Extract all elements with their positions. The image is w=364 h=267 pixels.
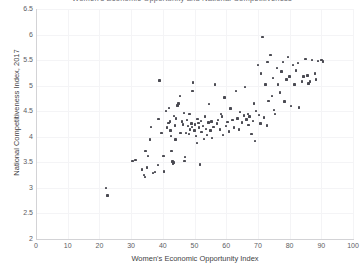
data-point: [238, 128, 240, 130]
data-point: [157, 164, 159, 166]
data-point: [199, 163, 201, 165]
data-point: [146, 166, 148, 168]
data-point: [169, 120, 171, 122]
data-point: [209, 129, 211, 131]
data-point: [188, 113, 190, 115]
x-axis-tick-labels: 0102030405060708090100: [0, 242, 364, 254]
chart-title: Women's Economic Opportunity and Nationa…: [0, 0, 364, 3]
data-point: [170, 150, 172, 152]
data-point: [216, 122, 218, 124]
data-point: [266, 124, 268, 126]
gridline-horizontal: [36, 188, 353, 189]
data-point: [248, 115, 250, 117]
gridline-horizontal: [36, 111, 353, 112]
data-point: [150, 126, 152, 128]
plot-area: [36, 9, 353, 239]
data-point: [202, 125, 204, 127]
data-point: [306, 74, 308, 76]
data-point: [247, 124, 249, 126]
y-axis-title: National Competitiveness Index, 2017: [12, 33, 21, 193]
y-tick-label: 5.5: [23, 56, 33, 64]
data-point: [170, 135, 172, 137]
data-point: [176, 104, 178, 106]
y-tick-label: 6: [29, 31, 33, 39]
data-point: [231, 119, 233, 121]
gridline-vertical: [353, 9, 354, 239]
data-point: [191, 90, 193, 92]
data-point: [217, 119, 219, 121]
data-point: [179, 95, 181, 97]
data-point: [285, 78, 287, 80]
y-tick-label: 5: [29, 82, 33, 90]
data-point: [269, 54, 271, 56]
data-point: [197, 122, 199, 124]
data-point: [253, 102, 255, 104]
data-point: [190, 122, 192, 124]
data-point: [250, 133, 252, 135]
x-tick-label: 0: [24, 242, 48, 250]
data-point: [282, 61, 284, 63]
y-tick-label: 4: [29, 133, 33, 141]
data-point: [157, 118, 159, 120]
data-point: [200, 131, 202, 133]
data-point: [239, 111, 241, 113]
data-point: [208, 103, 210, 105]
data-point: [315, 78, 317, 80]
gridline-horizontal: [36, 35, 353, 36]
data-point: [309, 80, 311, 82]
data-point: [195, 135, 197, 137]
gridline-vertical: [163, 9, 164, 239]
data-point: [223, 96, 225, 98]
data-point: [182, 123, 184, 125]
data-point: [175, 117, 177, 119]
data-point: [183, 112, 185, 114]
x-tick-label: 40: [151, 242, 175, 250]
data-point: [266, 61, 268, 63]
x-axis-line: [36, 239, 354, 240]
data-point: [226, 121, 228, 123]
data-point: [158, 79, 160, 81]
data-point: [162, 155, 164, 157]
data-point: [302, 75, 304, 77]
data-point: [233, 126, 235, 128]
data-point: [193, 129, 195, 131]
data-point: [260, 72, 262, 74]
scatter-chart-figure: Women's Economic Opportunity and Nationa…: [0, 0, 364, 267]
data-point: [149, 138, 151, 140]
data-point: [314, 72, 316, 74]
data-point: [263, 116, 265, 118]
data-point: [293, 83, 295, 85]
data-point: [191, 126, 193, 128]
gridline-vertical: [226, 9, 227, 239]
data-point: [271, 95, 273, 97]
x-tick-label: 70: [246, 242, 270, 250]
data-point: [168, 107, 170, 109]
data-point: [207, 121, 209, 123]
data-point: [144, 176, 146, 178]
y-tick-label: 6.5: [23, 5, 33, 13]
x-axis-title: Women's Economic Opportunity Index: [36, 254, 354, 263]
x-tick-label: 90: [309, 242, 333, 250]
data-point: [205, 128, 207, 130]
data-point: [307, 82, 309, 84]
y-tick-label: 2.5: [23, 209, 33, 217]
x-tick-label: 20: [87, 242, 111, 250]
x-tick-label: 30: [119, 242, 143, 250]
y-axis-line: [36, 9, 37, 240]
gridline-horizontal: [36, 9, 353, 10]
data-point: [259, 122, 261, 124]
gridline-horizontal: [36, 86, 353, 87]
gridline-horizontal: [36, 60, 353, 61]
y-tick-label: 4.5: [23, 107, 33, 115]
x-tick-label: 100: [341, 242, 364, 250]
data-point: [287, 56, 289, 58]
data-point: [264, 83, 266, 85]
data-point: [174, 138, 176, 140]
data-point: [272, 77, 274, 79]
data-point: [292, 64, 294, 66]
gridline-vertical: [131, 9, 132, 239]
gridline-horizontal: [36, 162, 353, 163]
data-point: [283, 100, 285, 102]
data-point: [174, 124, 176, 126]
data-point: [236, 117, 238, 119]
